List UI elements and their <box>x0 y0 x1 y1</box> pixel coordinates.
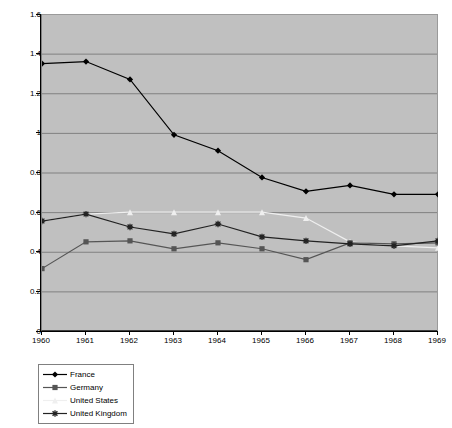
x-tick-mark <box>349 331 350 335</box>
data-point-marker <box>52 385 57 390</box>
x-tick-label: 1964 <box>197 336 237 345</box>
data-point-marker <box>215 240 220 245</box>
legend-label: Germany <box>68 382 103 393</box>
data-point-marker <box>347 182 353 188</box>
x-tick-mark <box>217 331 218 335</box>
x-tick-label: 1963 <box>153 336 193 345</box>
data-point-marker <box>215 148 221 154</box>
legend-item-france[interactable]: France <box>42 368 127 381</box>
data-point-marker <box>127 238 132 243</box>
x-tick-label: 1960 <box>21 336 61 345</box>
legend-item-united-states[interactable]: United States <box>42 394 127 407</box>
y-tick: 0.8 <box>0 168 41 177</box>
data-point-marker <box>259 174 265 180</box>
data-point-marker <box>391 243 397 249</box>
y-tick: 1.4 <box>0 49 41 58</box>
data-point-marker <box>42 266 45 271</box>
data-point-marker <box>171 246 176 251</box>
chart-legend: FranceGermanyUnited StatesUnited Kingdom <box>38 364 134 424</box>
y-tick-mark <box>36 53 41 54</box>
y-tick-mark <box>36 132 41 133</box>
y-tick-mark <box>36 93 41 94</box>
x-tick-mark <box>129 331 130 335</box>
x-tick-mark <box>393 331 394 335</box>
y-tick: 0.4 <box>0 247 41 256</box>
x-tick-mark <box>437 331 438 335</box>
data-point-marker <box>259 246 264 251</box>
data-point-marker <box>303 257 308 262</box>
data-point-marker <box>303 188 309 194</box>
data-point-marker <box>259 234 265 240</box>
x-tick-label: 1969 <box>417 336 452 345</box>
y-tick: 1.2 <box>0 89 41 98</box>
legend-label: France <box>68 369 95 380</box>
x-tick-mark <box>305 331 306 335</box>
data-point-marker <box>42 218 45 224</box>
y-tick: 1 <box>0 128 41 137</box>
y-tick-mark <box>36 14 41 15</box>
y-tick-mark <box>36 251 41 252</box>
data-point-marker <box>52 410 58 416</box>
y-tick: 0.6 <box>0 208 41 217</box>
x-tick-label: 1966 <box>285 336 325 345</box>
data-point-marker <box>435 191 438 197</box>
legend-marker-triangle-icon <box>42 395 68 406</box>
legend-item-germany[interactable]: Germany <box>42 381 127 394</box>
x-tick-label: 1968 <box>373 336 413 345</box>
legend-label: United States <box>68 395 118 406</box>
legend-label: United Kingdom <box>68 408 127 419</box>
y-tick-mark <box>36 212 41 213</box>
plot-area <box>41 14 437 331</box>
data-point-marker <box>52 371 58 377</box>
x-tick-mark <box>261 331 262 335</box>
x-tick-mark <box>85 331 86 335</box>
data-point-marker <box>347 241 353 247</box>
y-tick: 0 <box>0 327 41 336</box>
series-france <box>42 58 438 197</box>
x-tick-label: 1961 <box>65 336 105 345</box>
line-chart: 00.20.40.60.811.21.41.6 1960196119621963… <box>0 0 452 428</box>
legend-marker-diamond-icon <box>42 369 68 380</box>
legend-marker-square-icon <box>42 382 68 393</box>
series-line <box>42 62 438 195</box>
data-point-marker <box>83 211 89 217</box>
x-tick-mark <box>173 331 174 335</box>
data-point-marker <box>391 191 397 197</box>
plot-svg <box>42 14 438 331</box>
data-point-marker <box>303 238 309 244</box>
y-tick-mark <box>36 291 41 292</box>
data-point-marker <box>127 224 133 230</box>
data-point-marker <box>83 239 88 244</box>
series-germany <box>42 238 438 271</box>
x-tick-label: 1965 <box>241 336 281 345</box>
x-tick-label: 1962 <box>109 336 149 345</box>
data-point-marker <box>83 58 89 64</box>
legend-item-united-kingdom[interactable]: United Kingdom <box>42 407 127 420</box>
x-tick-label: 1967 <box>329 336 369 345</box>
y-tick: 0.2 <box>0 287 41 296</box>
x-tick-mark <box>41 331 42 335</box>
data-point-marker <box>42 60 45 66</box>
data-point-marker <box>171 231 177 237</box>
y-tick: 1.6 <box>0 10 41 19</box>
x-axis-line <box>40 331 438 332</box>
legend-marker-cross-icon <box>42 408 68 419</box>
y-tick-mark <box>36 172 41 173</box>
data-point-marker <box>215 221 221 227</box>
